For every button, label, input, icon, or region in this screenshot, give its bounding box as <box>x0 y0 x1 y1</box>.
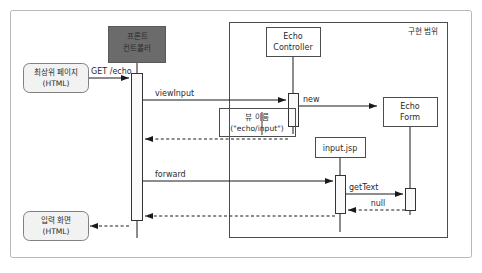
message-label-m7: null <box>371 199 386 208</box>
message-label-m6: getText <box>349 183 378 192</box>
implementation-scope-label: 구현 범위 <box>408 26 438 36</box>
participant-top-page-label-line1: 최상위 페이지 <box>34 67 78 77</box>
message-label-m3: new <box>303 95 320 104</box>
activation-echo-form <box>406 189 416 211</box>
sequence-diagram-canvas: 구현 범위 GET /echo viewInput new forward ge… <box>0 0 482 273</box>
note-view-name-line2: ("echo/input") <box>230 124 283 133</box>
diagram-svg: 구현 범위 GET /echo viewInput new forward ge… <box>0 0 482 273</box>
participant-front-controller-label-line1: 프론트 <box>127 32 148 41</box>
participant-echo-form-label-line1: Echo <box>400 102 420 111</box>
participant-echo-controller-label-line2: Controller <box>273 43 313 52</box>
participant-input-screen-label-line2: (HTML) <box>42 227 69 236</box>
message-label-m1: GET /echo <box>91 67 132 76</box>
participant-top-page-label-line2: (HTML) <box>42 79 69 88</box>
participant-echo-controller-label-line1: Echo <box>283 32 303 41</box>
participant-input-jsp-label: input.jsp <box>323 144 358 153</box>
note-view-name-line1: 뷰 이름 <box>245 112 268 122</box>
participant-echo-form-label-line2: Form <box>400 113 420 122</box>
message-label-m2: viewInput <box>155 89 194 98</box>
message-label-m5: forward <box>155 170 186 179</box>
activation-front-controller <box>132 74 143 221</box>
activation-input-jsp <box>336 176 346 214</box>
participant-input-screen-label-line1: 입력 화면 <box>41 215 71 225</box>
participant-front-controller-label-line2: 컨트롤러 <box>123 43 151 53</box>
